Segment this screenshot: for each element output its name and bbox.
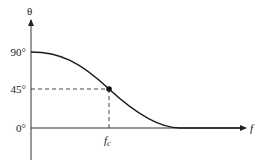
fc-label: fc — [104, 134, 111, 148]
y-axis-label: θ — [27, 5, 32, 17]
tick-90: 90° — [11, 46, 26, 58]
x-axis-label: f — [250, 122, 255, 134]
phase-curve — [31, 52, 240, 128]
tick-45: 45° — [11, 83, 26, 95]
phase-response-chart: θ f 90° 45° 0° fc — [0, 0, 272, 165]
tick-0: 0° — [16, 122, 26, 134]
fc-point — [106, 86, 112, 92]
